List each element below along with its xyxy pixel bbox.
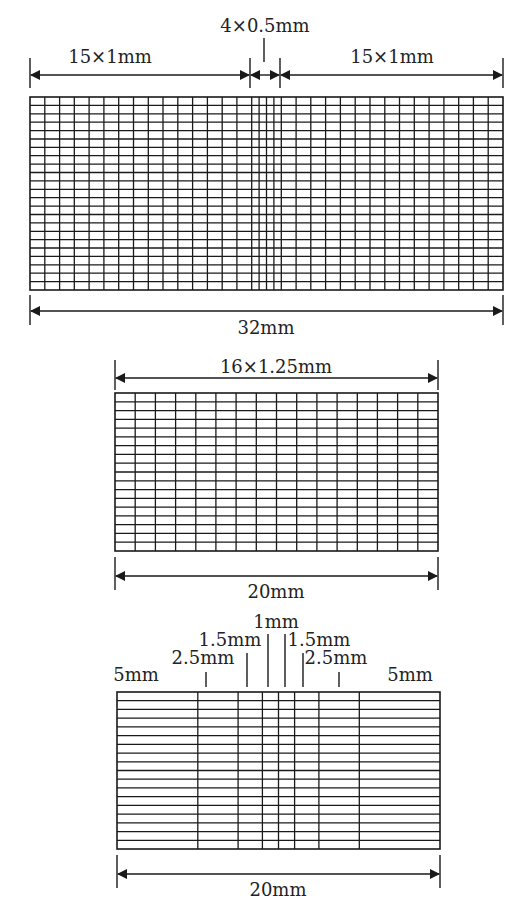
label-total-width: 20mm bbox=[249, 879, 306, 900]
label-divisions: 16×1.25mm bbox=[220, 356, 332, 377]
diagram-top: 4×0.5mm 15×1mm 15×1mm 32mm bbox=[30, 15, 503, 338]
label-seg-2-5mm-right: 2.5mm bbox=[305, 647, 368, 668]
label-left-divisions: 15×1mm bbox=[68, 46, 152, 67]
label-total-width: 20mm bbox=[247, 581, 304, 602]
diagram-bottom: 5mm 2.5mm 1.5mm 1mm 1.5mm 2.5mm 5mm 20mm bbox=[113, 611, 440, 900]
label-seg-5mm-right: 5mm bbox=[387, 664, 433, 685]
label-total-width: 32mm bbox=[237, 317, 294, 338]
label-right-divisions: 15×1mm bbox=[350, 46, 434, 67]
mesh-figure: 4×0.5mm 15×1mm 15×1mm 32mm 16×1.25mm 20m… bbox=[0, 0, 517, 916]
mesh-grid-graded bbox=[117, 692, 440, 849]
mesh-grid-uniform bbox=[115, 393, 438, 551]
label-seg-2-5mm-left: 2.5mm bbox=[172, 647, 235, 668]
label-seg-5mm-left: 5mm bbox=[113, 664, 159, 685]
label-seg-1-5mm-left: 1.5mm bbox=[199, 629, 262, 650]
mesh-grid-refined bbox=[30, 97, 503, 290]
label-center-divisions: 4×0.5mm bbox=[220, 15, 309, 36]
diagram-middle: 16×1.25mm 20mm bbox=[115, 356, 438, 602]
